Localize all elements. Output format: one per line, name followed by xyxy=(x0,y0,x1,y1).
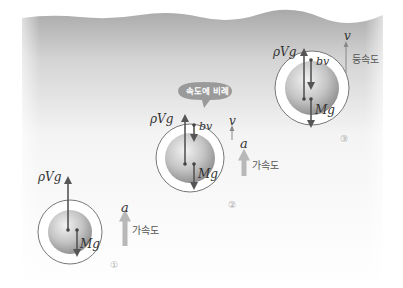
drag-label: bv xyxy=(199,120,213,133)
weight-label: Mg xyxy=(79,237,100,251)
diagram-canvas: ρVg Mg a 가속도 ① ρVg bv Mg v a 가속도 ② 속도에 비… xyxy=(0,0,403,288)
drag-label: bv xyxy=(316,55,330,68)
buoyancy-label: ρVg xyxy=(272,45,297,59)
acceleration-text: 가속도 xyxy=(132,225,159,236)
callout-text: 속도에 비례 xyxy=(186,86,229,96)
buoyancy-label: ρVg xyxy=(149,112,174,126)
acceleration-label: a xyxy=(121,200,129,215)
velocity-text: 등속도 xyxy=(352,54,379,65)
buoyancy-label: ρVg xyxy=(37,170,62,184)
acceleration-label: a xyxy=(240,136,248,151)
weight-label: Mg xyxy=(314,103,335,117)
stage-number: ② xyxy=(228,200,236,210)
stage-number: ③ xyxy=(340,134,348,144)
velocity-label: v xyxy=(229,114,236,128)
velocity-label: v xyxy=(344,29,351,43)
acceleration-text: 가속도 xyxy=(252,160,279,171)
stage-number: ① xyxy=(110,260,118,270)
weight-label: Mg xyxy=(197,167,218,181)
